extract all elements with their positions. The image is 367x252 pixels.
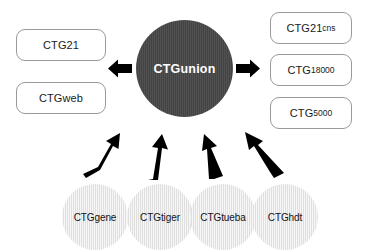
node-label-main: CTG	[290, 107, 314, 119]
diagram-canvas: CTG21 CTGweb CTG21cns CTG18000 CTG5000 C…	[0, 0, 367, 252]
arrow-right-icon	[236, 60, 260, 78]
node-box-ctg18000[interactable]: CTG18000	[270, 54, 352, 86]
node-box-ctg21cns[interactable]: CTG21cns	[270, 12, 352, 44]
arrow-up-from-ctggene-icon	[83, 133, 120, 178]
hub-label: CTGunion	[153, 62, 215, 76]
arrow-up-from-ctgtueba-icon	[202, 134, 223, 179]
node-label-main: CTG	[287, 64, 311, 76]
source-label: CTGhdt	[268, 212, 302, 223]
source-node-ctghdt[interactable]: CTGhdt	[252, 184, 318, 250]
arrow-up-from-ctghdt-icon	[245, 132, 284, 178]
node-label-main: CTG21	[43, 39, 79, 51]
node-label-main: CTGweb	[39, 92, 83, 104]
node-label-sub: cns	[322, 23, 335, 33]
source-node-ctggene[interactable]: CTGgene	[62, 184, 128, 250]
node-label-main: CTG21	[286, 22, 322, 34]
source-node-ctgtiger[interactable]: CTGtiger	[127, 184, 193, 250]
source-label: CTGtiger	[140, 212, 180, 223]
arrow-up-from-ctgtiger-icon	[148, 134, 168, 180]
node-box-ctg5000[interactable]: CTG5000	[270, 97, 352, 129]
source-label: CTGgene	[74, 212, 117, 223]
source-node-ctgtueba[interactable]: CTGtueba	[190, 184, 256, 250]
hub-node-ctgunion[interactable]: CTGunion	[136, 20, 233, 117]
source-label: CTGtueba	[200, 212, 245, 223]
arrow-left-icon	[108, 60, 132, 78]
node-box-ctg21[interactable]: CTG21	[16, 29, 106, 61]
node-box-ctgweb[interactable]: CTGweb	[16, 82, 106, 114]
node-label-sub: 5000	[313, 108, 332, 118]
node-label-sub: 18000	[311, 65, 335, 75]
